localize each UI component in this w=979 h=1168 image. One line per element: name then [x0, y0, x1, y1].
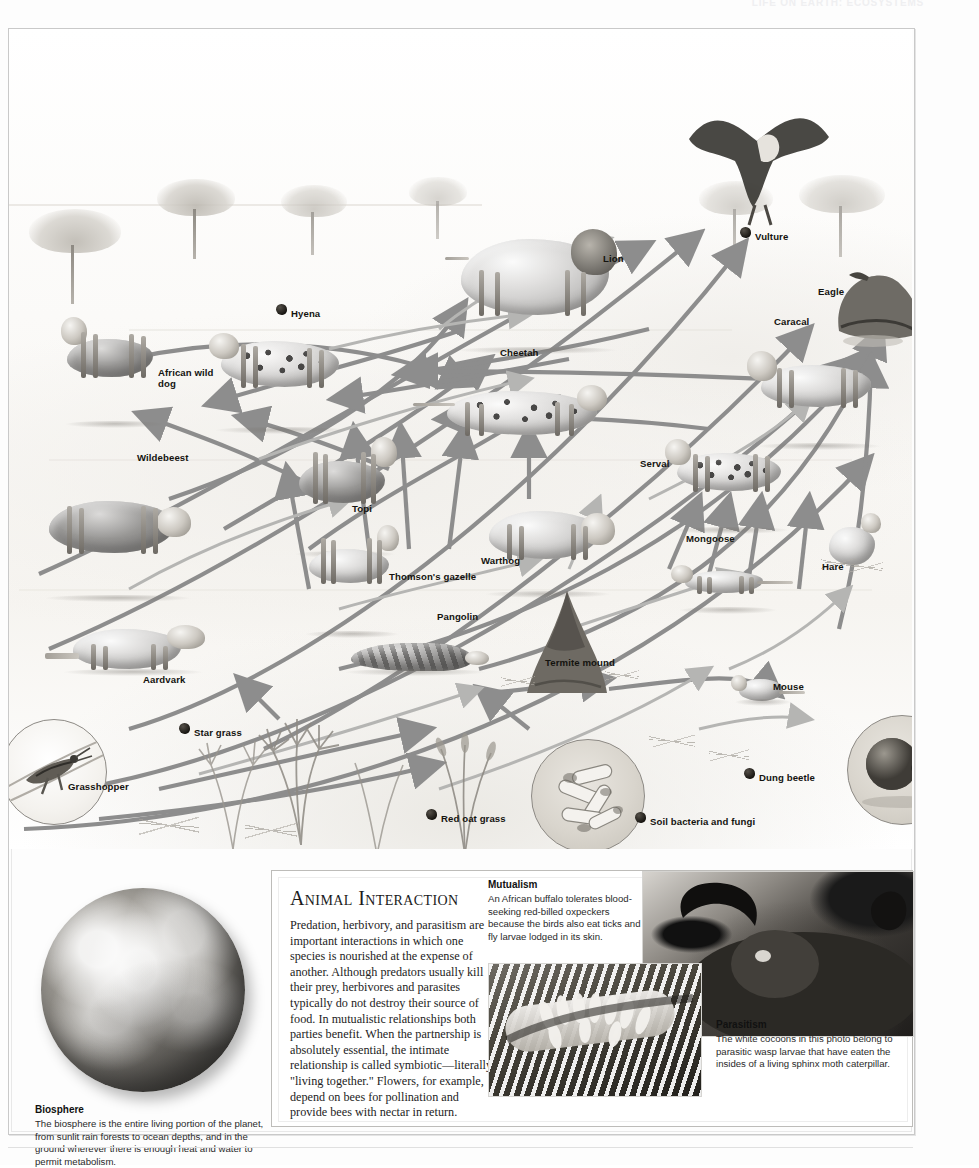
ground-shadow: [305, 631, 399, 638]
ground-shadow: [215, 427, 347, 434]
serval-illustration: [677, 453, 781, 491]
web-label-thomson-s-gazelle: Thomson's gazelle: [389, 571, 476, 582]
mutualism-body: An African buffalo tolerates blood-seeki…: [488, 893, 648, 943]
web-label-star-grass: Star grass: [194, 727, 242, 738]
web-label-mongoose: Mongoose: [686, 533, 735, 544]
grass-tuft: [139, 815, 199, 835]
label-bullet-icon: [740, 227, 751, 238]
web-label-topi: Topi: [352, 503, 372, 514]
grass-tuft: [501, 675, 535, 687]
biosphere-caption-body: The biosphere is the entire living porti…: [35, 1118, 267, 1168]
grass-tuft: [649, 735, 695, 747]
mutualism-title: Mutualism: [488, 879, 648, 890]
animal-interaction-text: Animal Interaction Predation, herbivory,…: [290, 887, 498, 1121]
thomsons-gazelle-illustration: [309, 549, 389, 583]
label-bullet-icon: [635, 812, 646, 823]
ground-shadow: [345, 669, 485, 676]
animal-interaction-title: Animal Interaction: [290, 887, 498, 910]
ground-shadow: [757, 443, 881, 450]
web-label-serval: Serval: [640, 458, 669, 469]
animal-interaction-body: Predation, herbivory, and parasitism are…: [290, 918, 498, 1121]
ground-shadow: [735, 699, 791, 706]
web-label-aardvark: Aardvark: [143, 674, 185, 685]
parasitism-body: The white cocoons in this photo belong t…: [716, 1033, 902, 1071]
web-label-pangolin: Pangolin: [437, 611, 478, 622]
label-bullet-icon: [276, 304, 287, 315]
web-label-termite-mound: Termite mound: [545, 657, 615, 668]
warthog-illustration: [489, 511, 599, 559]
label-bullet-icon: [744, 768, 755, 779]
web-label-hyena: Hyena: [291, 308, 320, 319]
label-bullet-icon: [179, 723, 190, 734]
pangolin-illustration: [351, 643, 473, 671]
web-label-lion: Lion: [603, 253, 624, 264]
red-oat-grass-illustration: [327, 729, 427, 849]
running-head: LIFE ON EARTH: ECOSYSTEMS: [594, 0, 924, 8]
wildebeest-illustration: [49, 501, 175, 553]
vulture-illustration: [669, 79, 854, 229]
web-label-warthog: Warthog: [481, 555, 520, 566]
web-label-wildebeest: Wildebeest: [137, 452, 189, 463]
grass-tuft: [709, 749, 749, 761]
biosphere-caption-title: Biosphere: [35, 1104, 267, 1115]
mutualism-caption: Mutualism An African buffalo tolerates b…: [488, 879, 648, 943]
grass-tuft: [849, 561, 883, 573]
topi-illustration: [299, 461, 385, 503]
parasitism-title: Parasitism: [716, 1019, 902, 1030]
web-label-grasshopper: Grasshopper: [68, 781, 129, 792]
ground-shadow: [45, 595, 191, 602]
web-label-caracal: Caracal: [774, 316, 809, 327]
biosphere-globe-image: [41, 888, 245, 1092]
grass-tuft: [245, 821, 297, 839]
ground-shadow: [65, 421, 165, 428]
web-label-mouse: Mouse: [773, 681, 804, 692]
mongoose-illustration: [685, 571, 763, 593]
sphinx-moth-caterpillar-photo: [488, 963, 702, 1097]
web-label-hare: Hare: [822, 561, 844, 572]
african-wild-dog-illustration: [67, 339, 153, 377]
ground-shadow: [679, 607, 777, 614]
animal-interaction-panel: Animal Interaction Predation, herbivory,…: [271, 870, 913, 1127]
eagle-illustration: [821, 257, 912, 353]
lion-illustration: [461, 239, 609, 315]
web-label-african-wild-dog: African wild dog: [158, 367, 216, 389]
aardvark-illustration: [73, 629, 181, 669]
biosphere-block: Biosphere The biosphere is the entire li…: [35, 888, 267, 1168]
cheetah-illustration: [447, 391, 597, 435]
soil-bacteria-inset: [531, 739, 645, 849]
parasitism-caption: Parasitism The white cocoons in this pho…: [716, 1019, 902, 1071]
web-label-dung-beetle: Dung beetle: [759, 772, 815, 783]
caracal-illustration: [761, 365, 871, 407]
savanna-food-web-illustration: VultureEagleLionCaracalHyenaCheetahAfric…: [9, 29, 912, 849]
web-label-soil-bacteria-and-fungi: Soil bacteria and fungi: [650, 816, 755, 827]
web-label-eagle: Eagle: [818, 286, 844, 297]
hyena-illustration: [221, 341, 339, 387]
footer-rule: [8, 1147, 913, 1148]
label-bullet-icon: [426, 809, 437, 820]
web-label-red-oat-grass: Red oat grass: [441, 813, 506, 824]
web-label-cheetah: Cheetah: [500, 347, 539, 358]
web-label-vulture: Vulture: [755, 231, 788, 242]
grass-tuft: [605, 669, 639, 681]
